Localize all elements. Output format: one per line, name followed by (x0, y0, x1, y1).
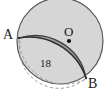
point-a-dot (18, 37, 20, 39)
label-center-o: O (64, 25, 73, 38)
center-point-dot (67, 39, 71, 43)
label-measure-18: 18 (40, 58, 51, 69)
label-point-b: B (88, 77, 97, 91)
geometry-figure: A B O 18 (0, 0, 109, 99)
label-point-a: A (3, 28, 13, 42)
point-b-dot (85, 77, 87, 79)
